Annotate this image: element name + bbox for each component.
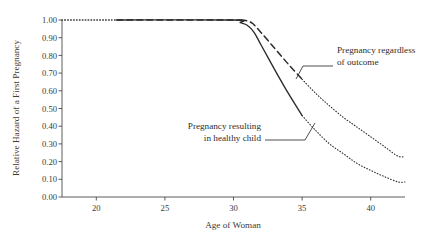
y-tick-label: 0.30: [42, 139, 57, 149]
annotation-line-1: Pregnancy regardless: [337, 45, 416, 55]
annotation-line-2: of outcome: [337, 57, 379, 67]
curve-healthy-child-right-dotted: [302, 116, 405, 183]
annotation-line-2: in healthy child: [204, 133, 262, 143]
y-tick-label: 0.70: [42, 68, 57, 78]
x-tick-label: 35: [298, 203, 307, 213]
x-tick-label: 20: [92, 203, 101, 213]
annotation-line-1: Pregnancy resulting: [188, 121, 262, 131]
chart-figure: Relative Hazard of a First Pregnancy 1.0…: [0, 0, 421, 243]
x-tick-label: 40: [366, 203, 375, 213]
annotation-leader-healthy: [265, 123, 315, 140]
y-tick-labels: 1.00 0.90 0.80 0.70 0.60 0.50 0.40 0.30 …: [42, 15, 57, 202]
x-axis-title: Age of Woman: [205, 220, 261, 230]
annotation-healthy-child: Pregnancy resulting in healthy child: [188, 121, 262, 143]
curve-healthy-child-main: [117, 20, 302, 116]
y-axis: [59, 20, 63, 197]
curve-regardless-of-outcome-main: [117, 20, 302, 79]
y-tick-label: 0.20: [42, 157, 57, 167]
y-tick-label: 0.00: [42, 192, 57, 202]
y-tick-label: 0.60: [42, 86, 57, 96]
x-tick-labels: 20 25 30 35 40: [92, 203, 375, 213]
chart-svg: Relative Hazard of a First Pregnancy 1.0…: [0, 0, 421, 243]
x-axis: [62, 197, 405, 201]
y-axis-title: Relative Hazard of a First Pregnancy: [11, 40, 21, 176]
x-tick-label: 30: [229, 203, 238, 213]
annotation-regardless-of-outcome: Pregnancy regardless of outcome: [337, 45, 416, 67]
y-tick-label: 0.10: [42, 174, 57, 184]
y-tick-label: 0.50: [42, 104, 57, 114]
y-tick-label: 0.90: [42, 33, 57, 43]
x-tick-label: 25: [161, 203, 170, 213]
y-tick-label: 0.80: [42, 51, 57, 61]
y-tick-label: 0.40: [42, 121, 57, 131]
curve-regardless-of-outcome-right-dotted: [302, 79, 405, 157]
annotation-leader-regardless: [296, 66, 333, 79]
y-tick-label: 1.00: [42, 15, 57, 25]
